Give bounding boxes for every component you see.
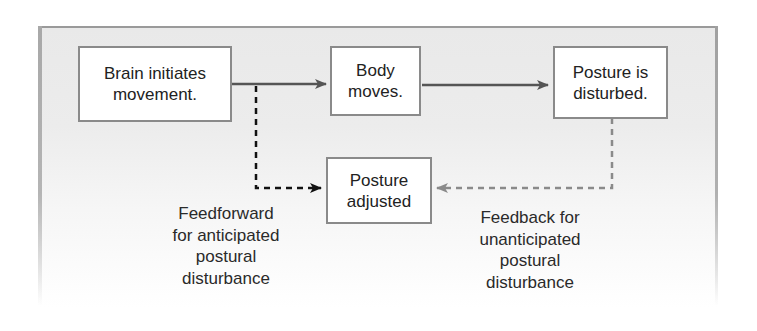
node-posture-disturbed: Posture is disturbed. <box>553 46 668 119</box>
node-brain-initiates-movement: Brain initiates movement. <box>78 46 232 122</box>
node-posture-adjusted: Posture adjusted <box>326 157 432 224</box>
arrow-feedforward <box>256 86 321 188</box>
node-body-moves: Body moves. <box>330 46 421 116</box>
feedforward-label: Feedforward for anticipated postural dis… <box>146 203 306 289</box>
arrow-feedback <box>437 118 612 188</box>
feedback-label: Feedback for unanticipated postural dist… <box>450 207 610 293</box>
